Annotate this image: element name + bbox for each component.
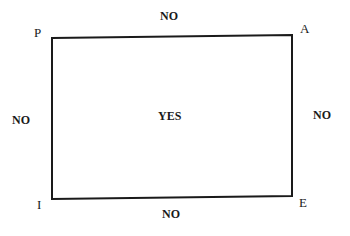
corner-label-top-right: A	[300, 22, 309, 35]
edge-label-bottom: NO	[162, 208, 180, 221]
edge-label-top: NO	[160, 10, 178, 23]
edge-label-right: NO	[313, 109, 331, 122]
corner-label-bottom-left: I	[37, 198, 41, 211]
corner-label-bottom-right: E	[299, 196, 307, 209]
edge-label-left: NO	[12, 114, 30, 127]
interior-label: YES	[158, 110, 181, 123]
corner-label-top-left: P	[34, 26, 41, 39]
